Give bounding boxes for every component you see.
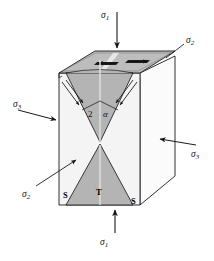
figure-container: σ1 σ1 σ2 σ2 σ3 σ3 2 α S S T [0,0,214,261]
tension-label: T [96,188,102,197]
sigma3-right-label: σ3 [191,150,199,160]
sigma1-top-label: σ1 [101,11,109,21]
top-face-slot-right [125,60,150,63]
shear-label-left: S [63,191,68,200]
angle-alpha-label: α [103,110,108,119]
stress-block-diagram [0,0,214,261]
sigma2-topright-label: σ2 [186,36,194,46]
sigma3-left-label: σ3 [13,100,21,110]
angle-number-label: 2 [88,110,93,119]
shear-label-right: S [131,197,136,206]
sigma2-bottomleft-label: σ2 [22,190,30,200]
sigma3-left-arrow [18,110,56,120]
top-face-slot-left [94,62,119,65]
sigma1-bottom-label: σ1 [100,238,108,248]
block-right-face [140,56,175,205]
